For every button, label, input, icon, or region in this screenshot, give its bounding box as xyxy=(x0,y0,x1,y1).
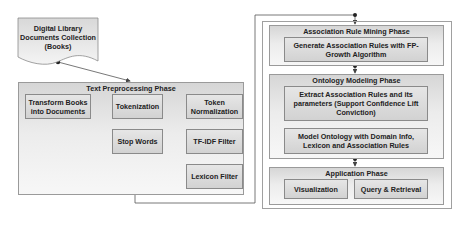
source-line-3: (Books) xyxy=(17,42,99,51)
source-line-1: Digital Library xyxy=(17,24,99,33)
token-normalization-box: Token Normalization xyxy=(186,94,243,119)
stop-words-box: Stop Words xyxy=(112,129,163,154)
association-mining-title: Association Rule Mining Phase xyxy=(270,27,443,36)
ontology-modeling-title: Ontology Modeling Phase xyxy=(270,76,443,85)
transform-books-box: Transform Books into Documents xyxy=(25,94,91,119)
generate-rules-box: Generate Association Rules with FP-Growt… xyxy=(284,37,428,62)
model-ontology-box: Model Ontology with Domain Info, Lexicon… xyxy=(284,128,428,154)
tokenization-box: Tokenization xyxy=(112,94,163,119)
source-document-label: Digital Library Documents Collection (Bo… xyxy=(17,24,99,51)
lexicon-filter-box: Lexicon Filter xyxy=(186,164,243,189)
visualization-box: Visualization xyxy=(284,179,348,199)
query-retrieval-box: Query & Retrieval xyxy=(354,179,428,199)
source-line-2: Documents Collection xyxy=(17,33,99,42)
extract-rules-box: Extract Association Rules and its parame… xyxy=(284,86,428,121)
tfidf-filter-box: TF-IDF Filter xyxy=(186,129,243,154)
text-preprocessing-title: Text Preprocessing Phase xyxy=(19,84,243,93)
application-title: Application Phase xyxy=(270,169,443,178)
